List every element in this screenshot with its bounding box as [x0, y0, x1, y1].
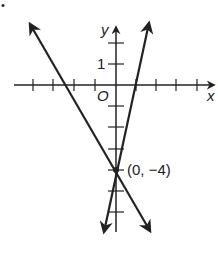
y-tick-label-1: 1: [97, 55, 105, 72]
bullet-marker: •: [1, 0, 5, 11]
origin-label: O: [97, 87, 109, 104]
x-axis-label: x: [206, 87, 215, 104]
intersection-point: [113, 167, 119, 173]
coordinate-graph: • y x O 1 (0, −4): [0, 0, 218, 270]
intersection-label: (0, −4): [127, 161, 171, 178]
y-axis-label: y: [100, 21, 110, 38]
line-1-slope-neg2: [30, 24, 150, 231]
